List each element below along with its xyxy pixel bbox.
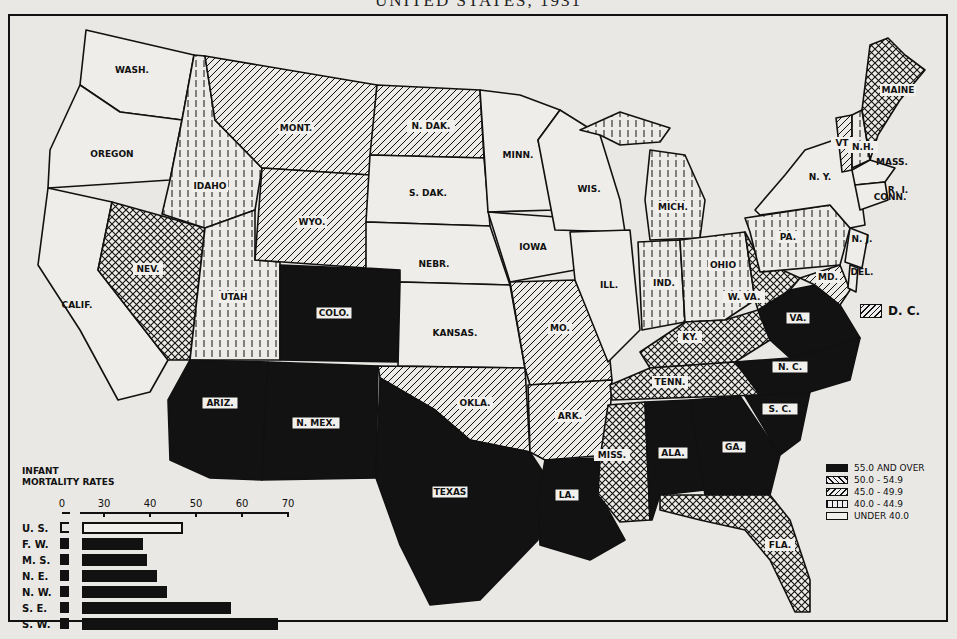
state-label: MD. (818, 272, 838, 282)
state-label: KY. (682, 332, 697, 342)
bar-row: N. W. (22, 586, 56, 598)
bar-label: U. S. (22, 523, 56, 534)
state-label: ILL. (600, 280, 618, 290)
state-label: OREGON (90, 149, 133, 159)
bar-stub (60, 618, 69, 629)
state-label: WASH. (115, 65, 149, 75)
legend-item: 50.0 - 54.9 (826, 474, 925, 486)
state-label: OHIO (710, 260, 737, 270)
legend-item: 55.0 AND OVER (826, 462, 925, 474)
state-ariz (168, 360, 268, 480)
bar-label: S. E. (22, 603, 56, 614)
bar-row: U. S. (22, 522, 56, 534)
bar-stub (60, 570, 69, 581)
state-label: WIS. (577, 184, 600, 194)
state-label: LA. (559, 490, 575, 500)
legend-item: 45.0 - 49.9 (826, 486, 925, 498)
state-label: IND. (653, 278, 675, 288)
state-label: S. DAK. (409, 188, 447, 198)
state-label: ALA. (661, 448, 684, 458)
state-label: MINN. (503, 150, 534, 160)
state-kansas (398, 282, 525, 368)
state-label: MAINE (882, 85, 915, 95)
state-label: OKLA. (460, 398, 491, 408)
state-ohio (680, 232, 755, 322)
bar (82, 570, 157, 582)
tick-label: 0 (59, 498, 65, 509)
state-label: NEV. (137, 264, 160, 274)
state-label: MICH. (658, 202, 688, 212)
state-mich (645, 150, 705, 240)
state-label: TEXAS (434, 487, 467, 497)
bar-row: F. W. (22, 538, 56, 550)
legend-item: 40.0 - 44.9 (826, 498, 925, 510)
state-fla (660, 495, 810, 612)
state-label: N. DAK. (412, 121, 451, 131)
state-label: CALIF. (62, 300, 93, 310)
infant-mortality-bar-chart: INFANT MORTALITY RATES 03040506070 U. S.… (22, 466, 302, 626)
legend-swatch-diagonal (826, 488, 848, 496)
dc-inset: D. C. (860, 304, 920, 318)
state-label: UTAH (220, 292, 247, 302)
state-label: MONT. (280, 123, 312, 133)
state-label: N. J. (852, 234, 873, 244)
bar-stub (60, 522, 69, 533)
state-label: MO. (550, 323, 570, 333)
legend-swatch-solid (826, 464, 848, 472)
state-label: W. VA. (728, 292, 761, 302)
state-label: KANSAS. (433, 328, 478, 338)
state-label: COLO. (319, 308, 350, 318)
state-label: PA. (780, 232, 796, 242)
bar-label: F. W. (22, 539, 56, 550)
state-label: CONN. (874, 192, 907, 202)
bar-stub (60, 538, 69, 549)
state-label: N.H. (852, 142, 874, 152)
bar-label: M. S. (22, 555, 56, 566)
state-label: ARIZ. (206, 398, 233, 408)
state-label: NEBR. (418, 259, 449, 269)
bar (82, 522, 183, 534)
state-label: MASS. (876, 157, 908, 167)
state-label: DEL. (851, 267, 874, 277)
tick-label: 70 (282, 498, 295, 509)
bar-row: S. W. (22, 618, 56, 630)
tick-label: 60 (236, 498, 249, 509)
state-label: GA. (725, 442, 743, 452)
state-label: FLA. (769, 540, 791, 550)
dc-label: D. C. (888, 304, 920, 318)
state-label: TENN. (655, 377, 686, 387)
state-label: S. C. (768, 404, 791, 414)
bar (82, 618, 278, 630)
bar-label: S. W. (22, 619, 56, 630)
bar (82, 538, 143, 550)
bar-stub (60, 602, 69, 613)
state-miss (598, 402, 650, 522)
state-label: VA. (790, 313, 807, 323)
tick-label: 40 (144, 498, 157, 509)
state-label: ARK. (558, 411, 582, 421)
x-axis: 03040506070 (22, 498, 302, 518)
dc-swatch (860, 304, 882, 318)
state-label: N. C. (778, 362, 802, 372)
bar-row: S. E. (22, 602, 56, 614)
chart-title: INFANT MORTALITY RATES (22, 466, 302, 488)
bar-stub (60, 586, 69, 597)
state-label: WYO. (299, 217, 326, 227)
state-label: N. Y. (809, 172, 832, 182)
axis-line (80, 512, 288, 514)
legend-swatch-crosshatch (826, 476, 848, 484)
bar-label: N. W. (22, 587, 56, 598)
legend: 55.0 AND OVER 50.0 - 54.9 45.0 - 49.9 40… (826, 462, 925, 522)
bar-label: N. E. (22, 571, 56, 582)
state-label: IOWA (519, 242, 547, 252)
state-label: N. MEX. (296, 418, 336, 428)
bar (82, 586, 167, 598)
bar-stub (60, 554, 69, 565)
bar (82, 602, 231, 614)
legend-swatch-vertical (826, 500, 848, 508)
legend-swatch-blank (826, 512, 848, 520)
tick-label: 30 (98, 498, 111, 509)
tick-label: 50 (190, 498, 203, 509)
state-label: IDAHO (194, 181, 227, 191)
bar-row: M. S. (22, 554, 56, 566)
